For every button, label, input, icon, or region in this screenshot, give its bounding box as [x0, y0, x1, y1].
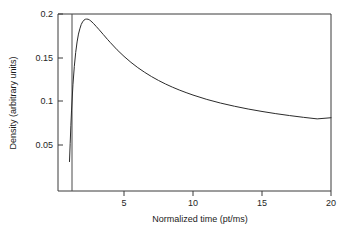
x-tick-label-5: 5: [121, 198, 126, 208]
chart-background: [0, 0, 351, 231]
y-axis-title: Density (arbitrary units): [8, 56, 18, 149]
y-tick-label-0.15: 0.15: [35, 53, 53, 63]
x-tick-label-20: 20: [326, 198, 336, 208]
x-tick-label-10: 10: [188, 198, 198, 208]
x-tick-label-15: 15: [257, 198, 267, 208]
density-vs-normalized-time-chart: 0.2 0.15 0.1 0.05 5 10 15 20 Normalized …: [0, 0, 351, 231]
y-tick-label-0.1: 0.1: [40, 96, 53, 106]
x-axis-title: Normalized time (pt/ms): [152, 214, 248, 224]
y-tick-label-0.2: 0.2: [40, 9, 53, 19]
y-tick-label-0.05: 0.05: [35, 140, 53, 150]
